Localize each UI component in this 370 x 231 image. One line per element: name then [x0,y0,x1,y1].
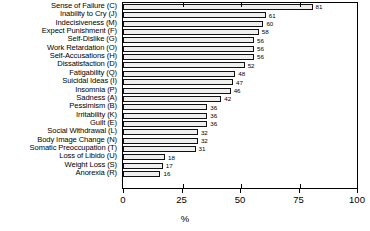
bar-row: 56 [123,45,357,53]
bar [123,62,245,68]
x-axis-tick-label: 100 [349,194,365,205]
plot-inner-tick [183,3,184,7]
bar-value-label: 17 [166,162,173,170]
bar [123,88,231,94]
bar-row: 16 [123,170,357,178]
bar-row: 36 [123,112,357,120]
bar-value-label: 36 [210,120,217,128]
bar-value-label: 36 [210,104,217,112]
bar [123,21,263,27]
bar-row: 42 [123,95,357,103]
x-axis-tick [240,189,241,193]
plot-inner-tick [300,3,301,7]
x-axis-tick [299,189,300,193]
x-axis-tick [357,189,358,193]
plot-inner-tick [241,184,242,188]
bar [123,104,207,110]
x-axis-tick-label: 25 [176,194,187,205]
bar-value-label: 58 [262,28,269,36]
bar-row: 31 [123,145,357,153]
bar [123,12,266,18]
bar-value-label: 18 [168,154,175,162]
bar-value-label: 32 [201,137,208,145]
bar-value-label: 32 [201,129,208,137]
bar [123,71,235,77]
plot-area: 8161605856565652484746423636363232311817… [122,2,358,189]
bar [123,4,313,10]
bar [123,96,221,102]
x-axis-title: % [0,213,370,224]
bar [123,121,207,127]
bar-value-label: 52 [248,62,255,70]
bar [123,129,198,135]
bar-row: 47 [123,78,357,86]
x-axis-tick [182,189,183,193]
bar-value-label: 56 [257,45,264,53]
bar-value-label: 46 [234,87,241,95]
x-axis-tick-label: 50 [235,194,246,205]
category-label-column: Sense of Failure (C)Inability to Cry (J)… [0,0,119,189]
bar-value-label: 56 [257,53,264,61]
bar-row: 60 [123,20,357,28]
bar-row: 36 [123,103,357,111]
bar-value-label: 60 [266,20,273,28]
bar-row: 32 [123,137,357,145]
bar-value-label: 56 [257,37,264,45]
bar [123,146,196,152]
bar-row: 81 [123,3,357,11]
x-axis-tick-label: 0 [120,194,125,205]
bar [123,54,254,60]
x-axis-tick-label: 75 [293,194,304,205]
plot-inner-tick [241,3,242,7]
bar [123,138,198,144]
bar [123,171,160,177]
bar-row: 58 [123,28,357,36]
bar [123,37,254,43]
x-axis: 0255075100 [122,189,358,190]
bar-row: 32 [123,128,357,136]
bar-value-label: 48 [238,70,245,78]
bar [123,46,254,52]
bar-row: 56 [123,53,357,61]
plot-inner-tick [300,184,301,188]
bar [123,79,233,85]
bar-row: 52 [123,61,357,69]
bar-row: 48 [123,70,357,78]
bar [123,154,165,160]
bar-row: 61 [123,11,357,19]
bar-row: 46 [123,87,357,95]
bar [123,113,207,119]
bar-value-label: 47 [236,79,243,87]
bar [123,163,163,169]
bar-value-label: 42 [224,95,231,103]
bar-row: 36 [123,120,357,128]
bar-value-label: 31 [199,145,206,153]
bar-value-label: 36 [210,112,217,120]
bar-row: 56 [123,36,357,44]
bar-value-label: 61 [269,12,276,20]
x-axis-tick [123,189,124,193]
category-label: Anorexia (R) [0,169,117,177]
bar-row: 18 [123,153,357,161]
bar-value-label: 81 [316,3,323,11]
plot-inner-tick [183,184,184,188]
bar-value-label: 16 [163,170,170,178]
horizontal-bar-chart: Sense of Failure (C)Inability to Cry (J)… [0,0,370,231]
bar-row: 17 [123,162,357,170]
bar [123,29,259,35]
